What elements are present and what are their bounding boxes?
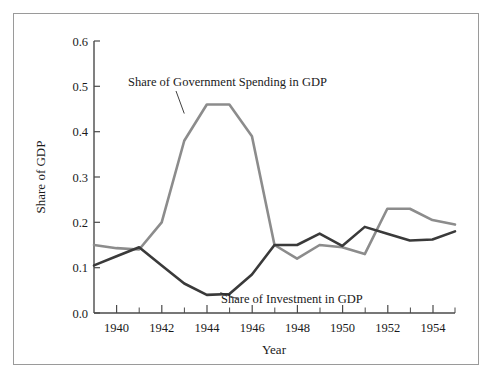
y-tick-label: 0.3 bbox=[72, 171, 88, 185]
x-tick-label: 1954 bbox=[421, 321, 447, 335]
line-chart: 0.0 0.1 0.2 0.3 0.4 0.5 0.6 Share of GDP bbox=[0, 0, 497, 383]
x-tick-label: 1944 bbox=[195, 321, 221, 335]
x-tick-label: 1952 bbox=[375, 321, 400, 335]
y-tick-label: 0.4 bbox=[72, 125, 88, 139]
y-tick-label: 0.6 bbox=[72, 35, 88, 49]
y-tick-label: 0.1 bbox=[72, 261, 88, 275]
y-tick-label: 0.5 bbox=[72, 80, 88, 94]
y-axis-tick-labels: 0.0 0.1 0.2 0.3 0.4 0.5 0.6 bbox=[72, 35, 88, 321]
chart-figure: 0.0 0.1 0.2 0.3 0.4 0.5 0.6 Share of GDP bbox=[0, 0, 497, 383]
annotation-label-government: Share of Government Spending in GDP bbox=[128, 75, 327, 89]
y-tick-label: 0.2 bbox=[72, 216, 88, 230]
annotation-label-investment: Share of Investment in GDP bbox=[221, 292, 363, 306]
series-line-government bbox=[94, 104, 455, 258]
y-axis-ticks bbox=[94, 41, 100, 313]
x-tick-label: 1946 bbox=[240, 321, 265, 335]
x-tick-label: 1950 bbox=[330, 321, 355, 335]
y-axis-title: Share of GDP bbox=[33, 141, 48, 214]
x-axis-tick-labels: 1940 1942 1944 1946 1948 1950 1952 1954 bbox=[104, 321, 446, 335]
y-tick-label: 0.0 bbox=[72, 307, 88, 321]
x-tick-label: 1940 bbox=[104, 321, 129, 335]
x-tick-label: 1948 bbox=[285, 321, 310, 335]
x-tick-label: 1942 bbox=[149, 321, 174, 335]
x-axis-title: Year bbox=[262, 342, 287, 357]
annotation-leader-government bbox=[176, 91, 184, 114]
